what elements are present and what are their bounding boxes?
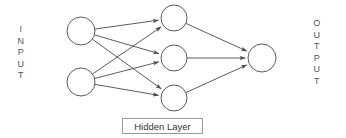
output-label-char-2: T — [314, 41, 320, 53]
output-label-char-1: U — [314, 30, 321, 42]
edge-h3-o1 — [186, 65, 247, 93]
hidden-layer-label-box: Hidden Layer — [122, 118, 203, 134]
input-node-2 — [67, 68, 95, 96]
input-node-1 — [67, 17, 95, 45]
output-label-char-4: U — [314, 64, 321, 76]
neural-network-diagram: INPUT OUTPUT Hidden Layer — [0, 0, 346, 138]
edge-i2-h3 — [95, 84, 159, 95]
output-node-1 — [248, 44, 276, 72]
edge-h1-o1 — [186, 23, 247, 51]
hidden-node-1 — [161, 5, 187, 31]
hidden-node-2 — [161, 45, 187, 71]
output-label-char-0: O — [313, 18, 320, 30]
hidden-node-3 — [161, 85, 187, 111]
edge-i2-h1 — [93, 27, 162, 74]
edge-i1-h1 — [95, 20, 159, 29]
output-label-char-5: T — [314, 76, 320, 88]
output-layer-label: OUTPUT — [305, 18, 329, 87]
output-label-char-3: P — [314, 53, 320, 65]
